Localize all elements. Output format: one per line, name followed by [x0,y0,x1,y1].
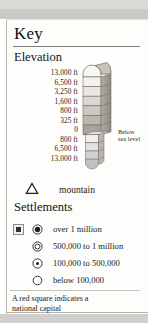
elevation-heading: Elevation [14,50,62,65]
settlements-list: over 1 million 500,000 to 1 million 100,… [10,221,144,289]
mountain-label: mountain [59,184,95,196]
page-background-strip-lower [0,9,148,19]
footnote-divider [10,290,140,291]
mountain-icon [25,182,39,195]
elevation-label: 325 ft [6,116,78,126]
settlement-label: 100,000 to 500,000 [53,257,120,270]
empty-ring-icon [32,275,43,286]
page-background-strip-bottom [0,314,148,323]
settlement-label: over 1 million [53,223,102,236]
capital-footnote: A red square indicates a national capita… [12,294,140,313]
settlement-row-below-100k: below 100,000 [10,272,144,289]
below-sea-level-note: Below sea level [118,128,148,143]
settlement-row-100k-to-500k: 100,000 to 500,000 [10,255,144,272]
double-ring-icon [32,241,43,252]
capital-footnote-line2: national capital [12,304,140,314]
settlement-label: below 100,000 [53,274,104,287]
filled-dot-in-ring-icon [32,224,43,235]
elevation-scale-labels: 13,000 ft 6,500 ft 3,250 ft 1,600 ft 800… [6,68,78,163]
red-square-capital-icon [13,224,24,235]
elevation-label-sea-level: 0 [6,125,78,135]
elevation-label: 13,000 ft [6,68,78,78]
elevation-label: 6,500 ft [6,78,78,88]
settlement-row-over-1-million: over 1 million [10,221,144,238]
map-legend-panel: Key Elevation 13,000 ft 6,500 ft 3,250 f… [0,0,148,323]
below-sea-level-note-line1: Below [118,128,148,135]
capital-footnote-line1: A red square indicates a [12,294,140,304]
page-background-strip-upper [0,0,148,9]
settlement-row-500k-to-1-million: 500,000 to 1 million [10,238,144,255]
small-dot-in-ring-icon [32,258,43,269]
key-title-divider [13,46,140,47]
elevation-label: 800 ft [6,135,78,145]
settlements-heading: Settlements [14,200,72,215]
key-title: Key [14,24,43,44]
settlement-label: 500,000 to 1 million [53,240,123,253]
elevation-label: 3,250 ft [6,87,78,97]
elevation-label: 6,500 ft [6,144,78,154]
elevation-label: 1,600 ft [6,97,78,107]
mountain-legend-row: mountain [14,182,134,198]
elevation-label: 13,000 ft [6,154,78,164]
elevation-label: 800 ft [6,106,78,116]
below-sea-level-note-line2: sea level [118,135,148,142]
elevation-prism-graphic [78,60,118,172]
